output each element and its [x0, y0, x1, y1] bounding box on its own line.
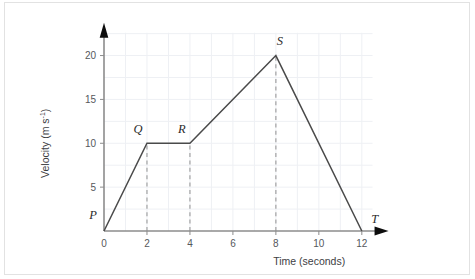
- velocity-time-chart: 024681012 5101520 PQRST Time (seconds)Ve…: [5, 3, 471, 276]
- x-tick-label: 2: [144, 238, 150, 249]
- point-label-r: R: [177, 122, 186, 136]
- tick-marks: [100, 56, 362, 235]
- y-tick-labels: 5101520: [85, 50, 97, 193]
- y-tick-label: 10: [85, 138, 97, 149]
- point-label-q: Q: [133, 122, 142, 136]
- x-tick-label: 12: [356, 238, 368, 249]
- x-tick-label: 10: [313, 238, 325, 249]
- x-tick-labels: 024681012: [101, 238, 368, 249]
- y-tick-label: 15: [85, 94, 97, 105]
- x-tick-label: 4: [187, 238, 193, 249]
- axes: [100, 23, 389, 236]
- y-tick-label: 20: [85, 50, 97, 61]
- figure-frame: 024681012 5101520 PQRST Time (seconds)Ve…: [4, 2, 470, 275]
- x-tick-label: 6: [230, 238, 236, 249]
- x-tick-label: 0: [101, 238, 107, 249]
- y-axis-title: Velocity (m s-1): [39, 109, 51, 178]
- point-label-s: S: [277, 34, 284, 48]
- point-label-p: P: [88, 208, 97, 222]
- y-tick-label: 5: [90, 182, 96, 193]
- point-label-t: T: [371, 212, 379, 226]
- point-labels: PQRST: [88, 34, 379, 226]
- grid-lines: [104, 33, 373, 231]
- x-axis-title: Time (seconds): [273, 255, 345, 267]
- x-tick-label: 8: [273, 238, 279, 249]
